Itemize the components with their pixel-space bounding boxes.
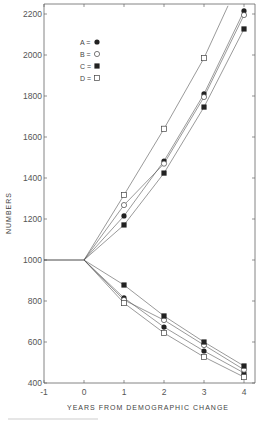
y-tick-label: 2000: [23, 50, 42, 60]
y-tick-label: 800: [28, 296, 42, 306]
data-point-d-increase: [161, 126, 166, 131]
data-point-c-decrease: [121, 282, 126, 287]
caption-placeholder: [8, 418, 98, 420]
legend-label: C =: [80, 63, 91, 70]
data-point-d-decrease: [241, 374, 246, 379]
data-point-c-increase: [201, 104, 206, 109]
y-tick-label: 1200: [23, 214, 42, 224]
data-point-c-decrease: [241, 363, 246, 368]
data-point-a-decrease: [201, 348, 206, 353]
x-axis-title: YEARS FROM DEMOGRAPHIC CHANGE: [67, 404, 229, 411]
x-tick-label: 0: [82, 387, 87, 397]
y-tick-label: 1000: [23, 255, 42, 265]
data-point-c-decrease: [161, 313, 166, 318]
x-tick-label: 1: [122, 387, 127, 397]
data-point-c-decrease: [201, 339, 206, 344]
data-point-c-increase: [121, 222, 126, 227]
axes: 4006008001000120014001600180020002200-10…: [23, 4, 255, 397]
data-point-d-increase: [121, 192, 126, 197]
y-axis-title: NUMBERS: [5, 192, 12, 234]
y-tick-label: 1800: [23, 91, 42, 101]
x-tick-label: 2: [162, 387, 167, 397]
chart: 4006008001000120014001600180020002200-10…: [0, 0, 266, 421]
series-line-b-increase: [84, 15, 244, 260]
data-point-b-increase: [241, 12, 246, 17]
legend-label: B =: [80, 51, 91, 58]
legend-marker-filled-square: [94, 63, 99, 68]
legend-marker-open-circle: [94, 51, 99, 56]
data-point-d-decrease: [161, 330, 166, 335]
y-tick-label: 600: [28, 337, 42, 347]
x-tick-label: 4: [242, 387, 247, 397]
series-line-c-decrease: [84, 260, 244, 366]
data-point-b-increase: [201, 94, 206, 99]
y-tick-label: 1600: [23, 132, 42, 142]
data-point-d-decrease: [201, 354, 206, 359]
series-lines: [44, 6, 244, 377]
data-point-b-increase: [121, 202, 126, 207]
data-point-a-increase: [121, 213, 126, 218]
legend-label: A =: [80, 39, 90, 46]
legend: A =B =C =D =: [80, 39, 100, 82]
data-point-b-increase: [161, 161, 166, 166]
data-point-d-increase: [201, 55, 206, 60]
data-point-a-decrease: [161, 324, 166, 329]
x-tick-label: -1: [40, 387, 48, 397]
series-line-a-increase: [84, 11, 244, 260]
y-tick-label: 1400: [23, 173, 42, 183]
y-tick-label: 2200: [23, 9, 42, 19]
series-line-d-increase: [84, 6, 228, 260]
data-point-d-decrease: [121, 300, 126, 305]
legend-marker-filled-circle: [94, 39, 99, 44]
legend-marker-open-square: [94, 75, 99, 80]
data-point-c-increase: [161, 170, 166, 175]
x-tick-label: 3: [202, 387, 207, 397]
data-point-c-increase: [241, 26, 246, 31]
legend-label: D =: [80, 75, 91, 82]
